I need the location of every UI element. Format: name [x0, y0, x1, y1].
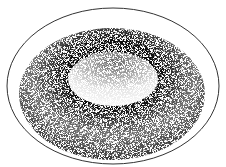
cell-illustration: [0, 0, 226, 167]
central-depression: [60, 50, 170, 110]
